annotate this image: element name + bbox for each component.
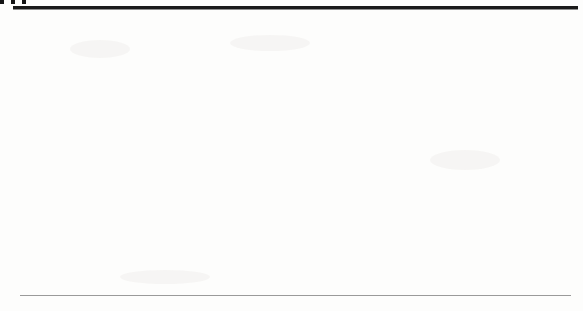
spectrum-plot [0,0,583,311]
spectrum-svg [0,0,583,311]
page-bottom-rule [20,295,571,296]
ellipsis-dot [0,0,4,4]
ellipsis-icon [0,0,26,4]
figure-root [0,0,583,311]
ellipsis-dot [22,0,26,4]
ellipsis-dot [11,0,15,4]
